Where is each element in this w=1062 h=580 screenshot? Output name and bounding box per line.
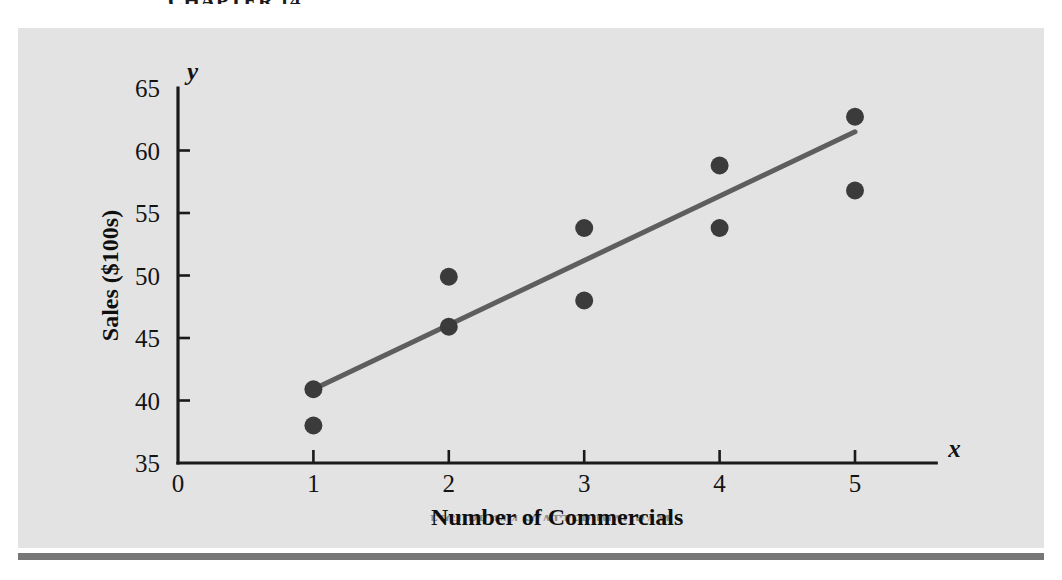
data-point	[846, 108, 864, 126]
figure-page: CHAPTER 14 FIGURE 14.4 SCATTER DIAGRAM 3…	[0, 0, 1062, 580]
x-tick-label: 3	[578, 470, 591, 497]
data-point	[575, 292, 593, 310]
data-point	[440, 268, 458, 286]
data-point	[711, 219, 729, 237]
regression-line	[313, 132, 855, 390]
scatter-plot: 35404550556065012345yxNumber of Commerci…	[0, 0, 1062, 580]
x-tick-label: 4	[713, 470, 726, 497]
x-tick-label: 5	[849, 470, 862, 497]
y-tick-label: 55	[135, 200, 160, 227]
y-tick-label: 50	[135, 263, 160, 290]
y-tick-label: 40	[135, 388, 160, 415]
y-axis-variable: y	[184, 58, 199, 85]
x-axis-title: Number of Commercials	[431, 504, 683, 530]
x-axis-variable: x	[947, 435, 961, 462]
x-tick-label: 0	[172, 470, 185, 497]
data-point	[304, 380, 322, 398]
data-point	[711, 157, 729, 175]
data-point	[846, 182, 864, 200]
x-tick-label: 1	[307, 470, 320, 497]
x-tick-label: 2	[443, 470, 456, 497]
y-tick-label: 65	[135, 75, 160, 102]
data-point	[304, 417, 322, 435]
y-tick-label: 60	[135, 138, 160, 165]
data-point	[575, 219, 593, 237]
data-point	[440, 318, 458, 336]
y-tick-label: 35	[135, 450, 160, 477]
y-axis-title: Sales ($100s)	[97, 210, 123, 341]
y-tick-label: 45	[135, 325, 160, 352]
